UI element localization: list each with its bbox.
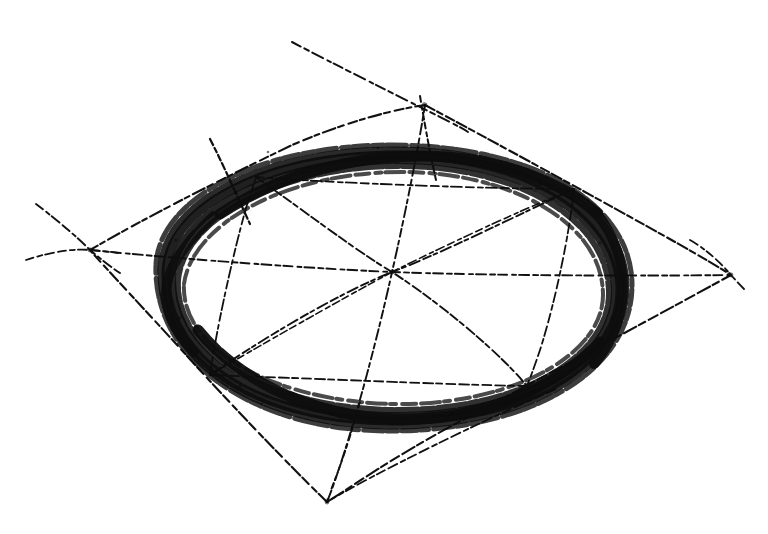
vertex-mark-bottom — [325, 500, 330, 505]
extension-top-left-overshoot — [292, 42, 468, 132]
extension-left-lower-overshoot — [26, 250, 118, 260]
extension-left-upper-overshoot — [36, 204, 120, 273]
vertex-mark-left — [88, 248, 93, 253]
midline-topleft-bottomright — [256, 177, 527, 386]
inscribed-ellipse-group — [156, 145, 632, 431]
spoke-center-to-lower-left-corner — [210, 272, 392, 375]
midline-topright-bottomleft — [210, 189, 574, 375]
perspective-circle-drawing — [0, 0, 768, 534]
sketch-canvas — [0, 0, 768, 534]
vertex-mark-top — [423, 103, 428, 108]
vertex-mark-center — [390, 270, 395, 275]
vertex-mark-right — [729, 273, 734, 278]
